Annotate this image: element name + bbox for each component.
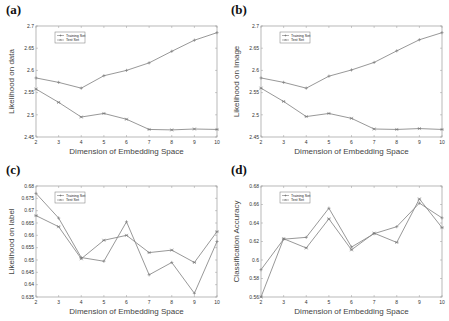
plus-marker-icon <box>440 31 443 34</box>
y-tick-label: 0.665 <box>21 220 34 226</box>
x-tick-label: 6 <box>350 139 353 145</box>
x-axis-label: Dimension of Embedding Space <box>69 307 184 316</box>
panel-a: 23456789102.452.52.552.62.652.7Dimension… <box>0 0 224 160</box>
panel-label-a: (a) <box>6 2 21 18</box>
x-tick-label: 3 <box>57 299 60 305</box>
y-axis-label: Likelihood on data <box>7 48 16 113</box>
star-marker-icon <box>395 128 398 131</box>
x-tick-label: 8 <box>170 139 173 145</box>
y-tick-label: 2.7 <box>27 23 34 29</box>
plus-marker-icon <box>125 69 128 72</box>
y-tick-label: 0.68 <box>24 183 34 189</box>
legend-entry: Training Set <box>291 194 310 198</box>
y-tick-label: 0.62 <box>249 238 259 244</box>
plus-marker-icon <box>395 49 398 52</box>
chart-b: 23456789102.452.52.552.62.652.7Dimension… <box>225 0 449 160</box>
plus-marker-icon <box>282 81 285 84</box>
star-marker-icon <box>327 217 330 220</box>
x-tick-label: 6 <box>125 139 128 145</box>
x-tick-label: 8 <box>395 299 398 305</box>
x-tick-label: 10 <box>439 139 445 145</box>
y-axis-label: Likelihood on Image <box>232 45 241 117</box>
y-tick-label: 2.65 <box>249 45 259 51</box>
legend-entry: Test Set <box>291 198 304 202</box>
x-tick-label: 8 <box>170 299 173 305</box>
star-marker-icon <box>350 117 353 120</box>
x-tick-label: 6 <box>350 299 353 305</box>
x-tick-label: 7 <box>373 139 376 145</box>
y-tick-label: 2.5 <box>27 112 34 118</box>
plus-marker-icon <box>305 87 308 90</box>
legend-entry: Test Set <box>291 38 304 42</box>
star-marker-icon <box>102 239 105 242</box>
y-tick-label: 0.68 <box>249 183 259 189</box>
chart-a: 23456789102.452.52.552.62.652.7Dimension… <box>0 0 224 160</box>
x-tick-label: 10 <box>214 299 220 305</box>
star-marker-icon <box>395 241 398 244</box>
x-tick-label: 5 <box>327 139 330 145</box>
x-axis-label: Dimension of Embedding Space <box>294 307 409 316</box>
x-tick-label: 4 <box>305 139 308 145</box>
y-tick-label: 0.6 <box>252 257 259 263</box>
series-line <box>261 203 442 270</box>
legend-entry: Test Set <box>66 38 79 42</box>
legend-entry: Training Set <box>291 34 310 38</box>
chart-c: 23456789100.6350.640.6450.650.6550.660.6… <box>0 160 224 320</box>
plus-marker-icon <box>215 31 218 34</box>
x-tick-label: 3 <box>282 299 285 305</box>
y-tick-label: 2.65 <box>24 45 34 51</box>
plus-marker-icon <box>259 76 262 79</box>
star-marker-icon <box>327 112 330 115</box>
plus-marker-icon <box>327 75 330 78</box>
plus-marker-icon <box>170 50 173 53</box>
star-marker-icon <box>282 100 285 103</box>
plus-marker-icon <box>373 61 376 64</box>
y-tick-label: 2.55 <box>249 89 259 95</box>
x-tick-label: 5 <box>102 139 105 145</box>
x-tick-label: 9 <box>193 299 196 305</box>
x-tick-label: 2 <box>35 139 38 145</box>
x-axis-label: Dimension of Embedding Space <box>294 147 409 156</box>
star-marker-icon <box>305 115 308 118</box>
star-marker-icon <box>193 261 196 264</box>
legend-entry: Training Set <box>66 34 85 38</box>
x-tick-label: 3 <box>57 139 60 145</box>
legend: Training SetTest Set <box>280 192 310 203</box>
y-tick-label: 0.58 <box>249 275 259 281</box>
star-marker-icon <box>57 225 60 228</box>
star-marker-icon <box>418 197 421 200</box>
star-marker-icon <box>102 112 105 115</box>
y-tick-label: 0.655 <box>21 244 34 250</box>
star-marker-icon <box>147 128 150 131</box>
plus-marker-icon <box>418 38 421 41</box>
series-line <box>36 89 217 130</box>
plus-marker-icon <box>57 81 60 84</box>
x-tick-label: 8 <box>395 139 398 145</box>
y-tick-label: 2.55 <box>24 89 34 95</box>
star-marker-icon <box>170 249 173 252</box>
y-tick-label: 0.645 <box>21 269 34 275</box>
star-marker-icon <box>57 101 60 104</box>
legend-entry: Training Set <box>66 194 85 198</box>
legend: Training SetTest Set <box>55 32 85 43</box>
panel-label-d: (d) <box>231 162 247 178</box>
star-marker-icon <box>170 128 173 131</box>
y-tick-label: 0.635 <box>21 294 34 300</box>
x-tick-label: 2 <box>260 299 263 305</box>
y-tick-label: 0.64 <box>24 281 34 287</box>
y-tick-label: 2.5 <box>252 112 259 118</box>
y-tick-label: 0.65 <box>24 257 34 263</box>
star-marker-icon <box>350 248 353 251</box>
chart-d: 23456789100.560.580.60.620.640.660.68Dim… <box>225 160 449 320</box>
x-tick-label: 5 <box>102 299 105 305</box>
x-tick-label: 9 <box>193 139 196 145</box>
y-tick-label: 0.66 <box>249 201 259 207</box>
series-line <box>36 193 217 293</box>
plus-marker-icon <box>350 68 353 71</box>
legend: Training SetTest Set <box>280 32 310 43</box>
x-tick-label: 2 <box>260 139 263 145</box>
x-tick-label: 3 <box>282 139 285 145</box>
star-marker-icon <box>125 234 128 237</box>
plus-marker-icon <box>193 39 196 42</box>
panel-label-c: (c) <box>6 162 20 178</box>
